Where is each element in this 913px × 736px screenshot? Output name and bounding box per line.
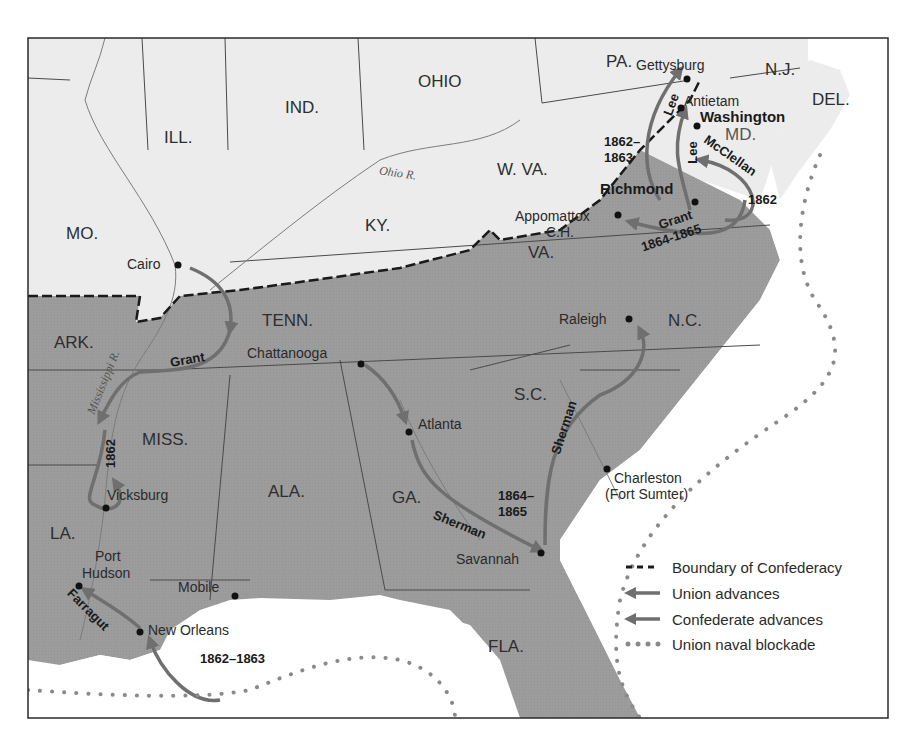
city-label-chattanooga: Chattanooga xyxy=(247,345,327,361)
state-label-del: DEL. xyxy=(812,90,850,110)
dotted-line-icon xyxy=(616,634,666,654)
city-label-fort-sumter: (Fort Sumter) xyxy=(605,486,688,502)
campaign-label-mcclellan-year: 1862 xyxy=(748,192,777,207)
state-label-ark: ARK. xyxy=(54,333,94,353)
state-label-miss: MISS. xyxy=(142,430,188,450)
state-label-ga: GA. xyxy=(392,488,421,508)
state-label-tenn: TENN. xyxy=(262,311,313,331)
city-label-port: Port xyxy=(95,548,121,564)
legend-item-boundary: Boundary of Confederacy xyxy=(616,557,842,577)
dashed-line-icon xyxy=(616,557,666,577)
state-label-ohio: OHIO xyxy=(418,72,461,92)
state-label-ky: KY. xyxy=(365,216,390,236)
legend-item-union-advances: Union advances xyxy=(616,583,780,603)
state-label-ind: IND. xyxy=(285,98,319,118)
city-label-vicksburg: Vicksburg xyxy=(107,487,168,503)
city-label-atlanta: Atlanta xyxy=(418,416,462,432)
city-label-antietam: Antietam xyxy=(684,93,739,109)
city-label-appomattox: Appomattox xyxy=(515,208,590,224)
legend-label: Union advances xyxy=(672,585,780,602)
campaign-label-sherman-years-a: 1864– xyxy=(498,488,534,503)
legend-item-confederate-advances: Confederate advances xyxy=(616,609,823,629)
city-label-new-orleans: New Orleans xyxy=(148,622,229,638)
arrow-icon xyxy=(616,583,666,603)
city-label-hudson: Hudson xyxy=(82,565,130,581)
campaign-label-farragut-years: 1862–1863 xyxy=(200,651,265,666)
city-label-washington: Washington xyxy=(700,108,785,125)
state-label-va: VA. xyxy=(528,243,554,263)
state-label-pa: PA. xyxy=(606,52,632,72)
city-label-savannah: Savannah xyxy=(456,551,519,567)
state-label-ill: ILL. xyxy=(164,128,192,148)
arrow-icon xyxy=(616,609,666,629)
campaign-label-sherman-years-b: 1865 xyxy=(498,504,527,519)
state-label-nc: N.C. xyxy=(668,311,702,331)
campaign-label-lee-2: Lee xyxy=(685,141,700,163)
state-label-md: MD. xyxy=(725,125,756,145)
state-label-nj: N.J. xyxy=(765,60,795,80)
city-label-charleston: Charleston xyxy=(614,470,682,486)
city-label-appomattox-ch: C.H. xyxy=(546,224,574,240)
state-label-mo: MO. xyxy=(66,224,98,244)
state-label-fla: FLA. xyxy=(488,637,524,657)
legend-label: Union naval blockade xyxy=(672,636,815,653)
campaign-label-lee-years-b: 1863 xyxy=(604,150,633,165)
state-label-wva: W. VA. xyxy=(497,160,548,180)
state-label-ala: ALA. xyxy=(268,482,305,502)
city-label-raleigh: Raleigh xyxy=(559,311,606,327)
campaign-label-lee-years-a: 1862– xyxy=(604,134,640,149)
city-label-gettysburg: Gettysburg xyxy=(636,57,704,73)
city-label-cairo: Cairo xyxy=(127,256,160,272)
legend-label: Confederate advances xyxy=(672,611,823,628)
legend-label: Boundary of Confederacy xyxy=(672,559,842,576)
city-label-mobile: Mobile xyxy=(178,579,219,595)
campaign-label-grant-west-year: 1862 xyxy=(103,439,118,468)
legend-item-blockade: Union naval blockade xyxy=(616,634,815,654)
state-label-sc: S.C. xyxy=(514,385,547,405)
state-label-la: LA. xyxy=(50,524,76,544)
city-label-richmond: Richmond xyxy=(600,180,673,197)
